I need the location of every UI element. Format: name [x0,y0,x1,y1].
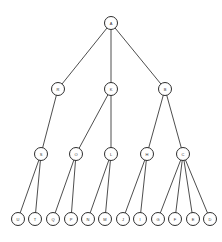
node-s: S [35,148,48,161]
node-label: Q [51,217,54,222]
node-label: H [146,152,149,157]
edge-a-r [58,23,111,89]
edge-b-h [147,89,165,154]
node-q: Q [47,213,60,226]
node-p: P [65,213,78,226]
node-label: S [40,152,43,157]
node-f: F [169,213,182,226]
node-label: O [74,152,77,157]
node-label: D [209,217,212,222]
node-e: E [187,213,200,226]
node-label: M [103,217,106,222]
node-j: J [117,213,130,226]
edge-r-s [41,89,58,154]
edge-c-e [183,154,193,219]
node-d: D [204,213,217,226]
node-m: M [99,213,112,226]
edge-o-p [71,154,76,219]
node-b: B [159,83,172,96]
node-label: P [70,217,73,222]
node-a: A [105,17,118,30]
node-label: C [182,152,185,157]
edge-a-b [111,23,165,89]
node-label: J [122,217,124,222]
node-k: K [105,83,118,96]
edge-b-c [165,89,183,154]
node-h: H [141,148,154,161]
node-r: R [52,83,65,96]
tree-diagram: ARKBSOLHCUTQPNMJIGFED [0,0,222,242]
node-g: G [152,213,165,226]
node-label: U [17,217,20,222]
edge-o-q [53,154,76,219]
node-o: O [70,148,83,161]
node-label: A [110,21,113,26]
node-n: N [82,213,95,226]
node-i: I [134,213,147,226]
node-label: I [139,217,140,222]
edge-c-d [183,154,210,219]
node-l: L [105,148,118,161]
node-label: E [192,217,195,222]
edge-k-o [76,89,111,154]
node-t: T [29,213,42,226]
node-label: G [156,217,159,222]
edges-group [18,23,210,219]
node-label: K [110,87,113,92]
node-u: U [12,213,25,226]
node-label: R [57,87,60,92]
node-label: N [87,217,90,222]
node-c: C [177,148,190,161]
nodes-group: ARKBSOLHCUTQPNMJIGFED [12,17,217,226]
node-label: B [164,87,167,92]
